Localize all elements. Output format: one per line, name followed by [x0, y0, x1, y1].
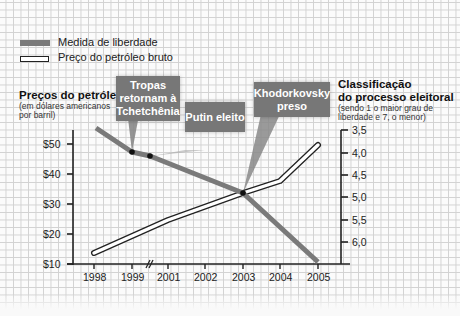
right-tick-4-0: 4,0 [352, 147, 367, 159]
callout-khodorkovsky: Khodorkovsky preso [254, 82, 330, 117]
right-tick-3-5: 3,5 [352, 124, 367, 136]
callout-chechnya-line1: Tropas [130, 79, 166, 92]
x-tick-2003: 2003 [232, 271, 255, 283]
callout-chechnya-line3: Tchetchênia [116, 105, 179, 118]
x-tick-1998: 1998 [83, 271, 106, 283]
left-tick-10: $10 [43, 258, 61, 270]
right-tick-5-5: 5,5 [352, 214, 367, 226]
oil-price-line [94, 145, 318, 253]
callout-khodorkovsky-line1: Khodorkovsky [254, 87, 330, 100]
left-tick-20: $20 [43, 228, 61, 240]
callout-chechnya-line2: retornam à [120, 92, 177, 105]
left-tick-50: $50 [43, 138, 61, 150]
event-dot-putin [147, 153, 153, 159]
x-tick-2001: 2001 [157, 271, 180, 283]
callout-putin-label: Putin eleito [185, 111, 244, 124]
x-tick-2005: 2005 [307, 271, 330, 283]
right-tick-5-0: 5,0 [352, 191, 367, 203]
x-tick-2002: 2002 [194, 271, 217, 283]
freedom-line [96, 128, 318, 262]
left-tick-40: $40 [43, 168, 61, 180]
right-tick-4-5: 4,5 [352, 169, 367, 181]
x-tick-2004: 2004 [269, 271, 292, 283]
callout-chechnya: Tropas retornam à Tchetchênia [116, 76, 180, 121]
right-tick-6-0: 6,0 [352, 236, 367, 248]
callout-putin: Putin eleito [185, 102, 245, 132]
left-tick-30: $30 [43, 198, 61, 210]
event-dot-chechnya [129, 149, 135, 155]
callout-pointer-putin [152, 150, 205, 156]
callout-khodorkovsky-line2: preso [277, 100, 307, 113]
x-tick-1999: 1999 [121, 271, 144, 283]
chart-plot [0, 0, 460, 316]
event-dot-khodorkovsky [240, 190, 246, 196]
